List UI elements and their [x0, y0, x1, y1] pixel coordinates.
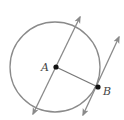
point-b: [95, 84, 100, 89]
point-a: [53, 64, 58, 69]
label-b: B: [102, 85, 111, 98]
label-a: A: [40, 61, 49, 74]
radius-ab: [56, 67, 98, 87]
tangent-line-at-b: [83, 37, 119, 115]
geometry-diagram: A B: [0, 0, 124, 120]
